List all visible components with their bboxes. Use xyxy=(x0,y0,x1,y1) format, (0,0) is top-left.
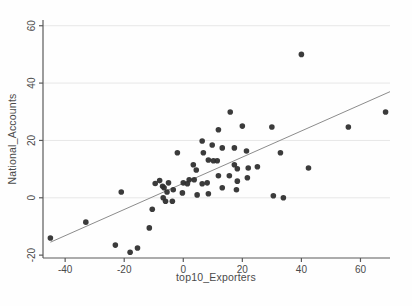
plot-area: -200204060-40-200204060 xyxy=(0,0,412,306)
data-point xyxy=(255,164,261,170)
y-tick-label: 20 xyxy=(26,134,37,146)
data-point xyxy=(245,175,251,181)
y-tick-label: -20 xyxy=(26,247,37,262)
x-tick-label: -40 xyxy=(58,264,73,275)
data-point xyxy=(219,145,225,151)
data-point xyxy=(346,124,352,130)
trend-line xyxy=(50,92,390,243)
data-point xyxy=(48,235,54,241)
plot-region: -200204060-40-200204060 National_Account… xyxy=(0,0,412,306)
data-point xyxy=(227,173,233,179)
data-point xyxy=(193,167,199,173)
x-tick-label: 60 xyxy=(355,264,367,275)
data-point xyxy=(127,249,133,255)
data-point xyxy=(235,178,241,184)
data-point xyxy=(216,127,222,133)
data-point xyxy=(186,177,192,183)
data-point xyxy=(245,165,251,171)
x-axis-title: top10_Exporters xyxy=(116,271,316,283)
data-point xyxy=(113,242,119,248)
data-point xyxy=(206,191,212,197)
y-tick-label: 60 xyxy=(26,20,37,32)
data-point xyxy=(135,245,141,251)
data-point xyxy=(216,173,222,179)
data-point xyxy=(118,189,124,195)
data-point xyxy=(147,225,153,231)
data-point xyxy=(299,52,305,58)
y-tick-label: 40 xyxy=(26,77,37,89)
data-point xyxy=(199,181,205,187)
data-point xyxy=(269,124,275,130)
data-point xyxy=(149,206,155,212)
data-point xyxy=(166,180,172,186)
data-point xyxy=(234,187,240,193)
data-point xyxy=(175,150,181,156)
data-point xyxy=(271,193,277,199)
data-point xyxy=(164,189,170,195)
data-point xyxy=(194,192,200,198)
data-point xyxy=(232,145,238,151)
data-point xyxy=(204,180,210,186)
data-point xyxy=(170,187,176,193)
data-point xyxy=(214,158,220,164)
data-point xyxy=(209,142,215,148)
data-point xyxy=(163,198,169,204)
data-point xyxy=(306,165,312,171)
scatter-plot-figure: -200204060-40-200204060 National_Account… xyxy=(0,0,412,306)
data-point xyxy=(383,109,389,115)
data-point xyxy=(201,150,207,156)
data-point xyxy=(206,157,212,163)
data-point xyxy=(157,178,163,184)
y-tick-label: 0 xyxy=(26,195,37,201)
data-point xyxy=(180,190,186,196)
data-point xyxy=(170,198,176,204)
data-point xyxy=(244,148,250,154)
data-point xyxy=(191,177,197,183)
data-point xyxy=(281,195,287,201)
y-axis-title: National_Accounts xyxy=(6,64,18,214)
data-point xyxy=(227,109,233,115)
data-point xyxy=(219,185,225,191)
data-point xyxy=(199,138,205,144)
data-point xyxy=(278,150,284,156)
data-point xyxy=(83,219,89,225)
data-point xyxy=(235,166,241,172)
data-point xyxy=(240,123,246,129)
data-point xyxy=(191,162,197,168)
